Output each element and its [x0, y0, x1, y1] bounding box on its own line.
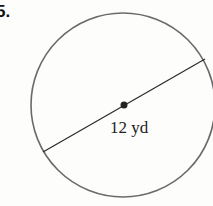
circle-diagram: 12 yd: [0, 0, 213, 206]
diameter-label: 12 yd: [110, 118, 149, 137]
center-point: [121, 102, 128, 109]
